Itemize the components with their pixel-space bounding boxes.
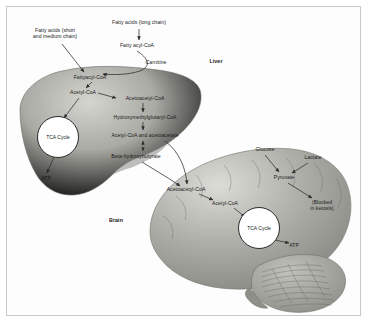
node-label-acetoacetyl-coa-brain: Acetoacetyl-CoA [167,186,206,192]
node-label-atp-brain: ATP [289,242,299,248]
node-label-blocked-in-ketosis: (Blocked in ketosis) [310,199,333,211]
edge-bhb-to-brain [142,162,180,186]
node-label-acetoacetyl-coa-liver: Acetoacetyl-CoA [126,95,165,101]
node-label-atp-liver: ATP [41,175,51,181]
tca-cycle-liver: TCA Cycle [37,116,79,158]
node-label-acetyl-coa-acetoacetate: Acetyl-CoA and acetoacetate [111,132,178,138]
node-label-pyruvate: Pyruvate [274,174,295,180]
node-label-acetyl-coa-liver: Acetyl-CoA [70,89,96,95]
pathway-canvas [0,0,369,324]
organ-label-brain: Brain [109,217,123,223]
node-label-fatty-acyl-coa: Fatty acyl-CoA [120,42,154,48]
cerebellum-shape [251,254,345,312]
node-label-carnitine: Carnitine [146,59,167,65]
organ-label-liver: Liver [209,58,222,64]
node-label-acetyl-coa-brain: Acetyl-CoA [212,200,238,206]
node-label-glucose: Glucose [255,146,274,152]
edge-fa-short [62,44,84,72]
node-label-beta-hydroxybutyrate: Beta-hydroxybutyrate [111,153,160,159]
node-label-lactate: Lactate [304,154,321,160]
node-label-hmg-coa: Hydroxymethylglutaryl-CoA [114,114,177,120]
tca-cycle-brain: TCA Cycle [238,207,280,249]
node-label-fatty-acids-long: Fatty acids (long chain) [112,19,166,25]
node-label-fatty-acids-short: Fatty acids (short and medium chain) [33,27,77,39]
node-label-fattyacyl-coa: Fattyacyl-CoA [74,74,107,80]
pathway-figure: Fatty acids (short and medium chain) Fat… [0,0,369,324]
